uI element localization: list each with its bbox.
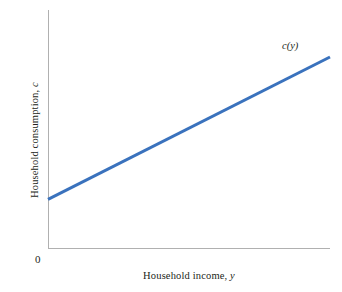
x-axis-label: Household income, y (48, 271, 330, 282)
y-axis-label: Household consumption, c (30, 0, 41, 198)
consumption-function-line (48, 57, 330, 199)
x-axis-label-variable: y (230, 270, 235, 281)
series-label-cy: c(y) (282, 41, 298, 52)
y-axis-label-variable: c (29, 82, 40, 87)
origin-label: 0 (35, 254, 41, 265)
consumption-function-chart: Household consumption, c Household incom… (0, 0, 342, 292)
x-axis-label-text: Household income, (143, 270, 230, 281)
y-axis-label-text: Household consumption, (29, 87, 40, 198)
